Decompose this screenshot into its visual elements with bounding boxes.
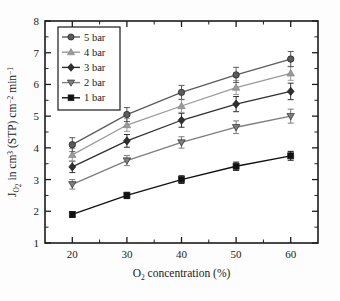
- legend-label: 1 bar: [84, 92, 106, 103]
- legend-label: 3 bar: [84, 62, 106, 73]
- chart-figure: 1234567820304050605 bar4 bar3 bar2 bar1 …: [0, 0, 340, 301]
- y-tick-label: 1: [34, 237, 40, 249]
- y-tick-label: 4: [34, 142, 40, 154]
- x-tick-label: 50: [231, 248, 243, 260]
- y-tick-label: 5: [34, 110, 40, 122]
- y-tick-label: 2: [34, 205, 40, 217]
- x-tick-label: 40: [176, 248, 188, 260]
- y-tick-label: 7: [34, 47, 40, 59]
- svg-text:JO2 in cm3 (STP) cm−2 min−1: JO2 in cm3 (STP) cm−2 min−1: [6, 67, 23, 197]
- y-tick-label: 8: [34, 15, 40, 27]
- x-tick-label: 20: [67, 248, 79, 260]
- data-point-marker: [124, 192, 130, 198]
- legend-label: 5 bar: [84, 32, 106, 43]
- x-tick-label: 30: [121, 248, 133, 260]
- data-point-marker: [69, 211, 75, 217]
- legend-label: 2 bar: [84, 77, 106, 88]
- y-axis-title: JO2 in cm3 (STP) cm−2 min−1: [6, 67, 23, 197]
- chart-canvas: 1234567820304050605 bar4 bar3 bar2 bar1 …: [0, 0, 340, 301]
- data-point-marker: [233, 72, 239, 78]
- data-point-marker: [287, 56, 293, 62]
- y-tick-label: 6: [34, 78, 40, 90]
- x-axis-title: O2 concentration (%): [133, 267, 231, 282]
- data-point-marker: [69, 141, 75, 147]
- legend-marker-circle-icon: [68, 34, 74, 40]
- data-point-marker: [233, 163, 239, 169]
- x-tick-label: 60: [285, 248, 297, 260]
- y-tick-label: 3: [34, 174, 40, 186]
- data-point-marker: [124, 111, 130, 117]
- data-point-marker: [288, 153, 294, 159]
- legend-label: 4 bar: [84, 47, 106, 58]
- legend-marker-square-icon: [68, 95, 74, 101]
- data-point-marker: [178, 177, 184, 183]
- data-point-marker: [178, 89, 184, 95]
